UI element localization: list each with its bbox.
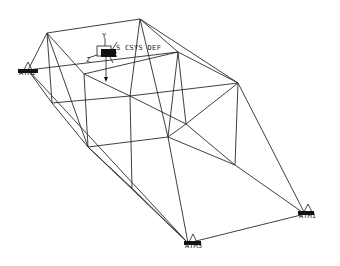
model-viewport[interactable]: Y Z X S CSYS DEF ATM2 ATM1 ATM3 (0, 0, 340, 266)
truss-edge (47, 33, 84, 74)
truss-edge (238, 83, 305, 214)
truss-edge (168, 137, 235, 165)
truss-edge (84, 52, 178, 74)
truss-edge (186, 124, 235, 165)
truss-edge (28, 33, 47, 70)
support-label: ATM1 (299, 212, 316, 220)
csys-label: S CSYS DEF (116, 44, 161, 52)
support-atm2[interactable]: ATM2 (18, 62, 38, 77)
truss-edge (186, 83, 238, 124)
truss-edge (130, 96, 186, 124)
truss-edge (235, 83, 238, 165)
csys-x-axis-label: X (113, 51, 118, 59)
truss-edge (168, 52, 178, 137)
csys-z-axis-label: Z (86, 56, 90, 64)
truss-edge (52, 96, 130, 103)
truss-edge (140, 19, 168, 137)
support-triangle-icon (304, 204, 312, 212)
truss-edge (47, 33, 88, 147)
truss-edge (178, 52, 238, 83)
csys-y-axis-label: Y (102, 32, 107, 40)
truss-edge (235, 165, 305, 214)
truss-edge (188, 214, 305, 243)
truss-edge (84, 74, 88, 147)
truss-edge (47, 19, 140, 33)
support-label: ATM3 (185, 242, 202, 250)
support-label: ATM2 (19, 69, 36, 77)
wireframe-canvas[interactable]: Y Z X S CSYS DEF ATM2 ATM1 ATM3 (0, 0, 340, 266)
truss-edge (52, 103, 88, 147)
truss-edge (88, 137, 168, 147)
truss-edge (28, 70, 188, 243)
truss-edge (168, 124, 186, 137)
truss-edge (178, 52, 186, 124)
truss-edge (130, 83, 238, 96)
truss-edges (28, 19, 305, 243)
